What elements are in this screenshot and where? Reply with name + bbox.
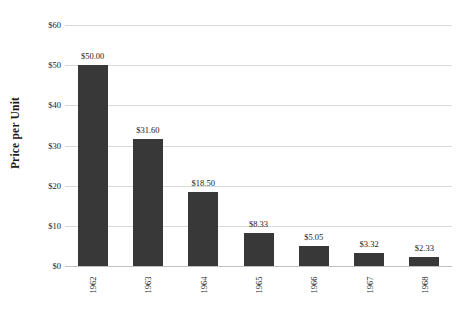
x-axis-tick-label: 1962 xyxy=(66,267,119,311)
bar[interactable] xyxy=(244,233,274,266)
x-axis-tick-label: 1963 xyxy=(121,267,174,311)
x-axis-tick-text: 1968 xyxy=(419,277,429,294)
bar-value-label: $8.33 xyxy=(249,219,268,229)
bar[interactable] xyxy=(409,257,439,266)
x-axis-tick-label: 1965 xyxy=(232,267,285,311)
y-axis-tick-label: $60 xyxy=(27,20,61,30)
bar-group[interactable]: $2.33 xyxy=(398,25,451,266)
bar-group[interactable]: $3.32 xyxy=(343,25,396,266)
bar-group[interactable]: $31.60 xyxy=(121,25,174,266)
x-axis-tick-label: 1968 xyxy=(398,267,451,311)
bar-value-label: $3.32 xyxy=(360,239,379,249)
y-axis-tick-label: $50 xyxy=(27,60,61,70)
bar-group[interactable]: $50.00 xyxy=(66,25,119,266)
bars-layer: $50.00$31.60$18.50$8.33$5.05$3.32$2.33 xyxy=(65,25,452,266)
x-axis-tick-label: 1966 xyxy=(287,267,340,311)
y-axis-title: Price per Unit xyxy=(0,0,30,266)
y-axis-tick-label: $20 xyxy=(27,181,61,191)
bar-value-label: $50.00 xyxy=(81,51,104,61)
bar[interactable] xyxy=(133,139,163,266)
bar-value-label: $2.33 xyxy=(415,243,434,253)
y-axis-tick-label: $0 xyxy=(27,261,61,271)
x-axis-tick-labels: 1962196319641965196619671968 xyxy=(65,267,452,311)
bar[interactable] xyxy=(188,192,218,266)
bar-group[interactable]: $8.33 xyxy=(232,25,285,266)
plot-area: $50.00$31.60$18.50$8.33$5.05$3.32$2.33 xyxy=(65,25,452,266)
x-axis-tick-text: 1963 xyxy=(143,277,153,294)
x-axis-tick-text: 1964 xyxy=(198,277,208,294)
bar[interactable] xyxy=(299,246,329,266)
bar-group[interactable]: $18.50 xyxy=(177,25,230,266)
y-axis-tick-label: $40 xyxy=(27,100,61,110)
x-axis-tick-label: 1967 xyxy=(343,267,396,311)
y-axis-tick-label: $30 xyxy=(27,141,61,151)
x-axis-tick-text: 1962 xyxy=(88,277,98,294)
y-axis-tick-label: $10 xyxy=(27,221,61,231)
bar-value-label: $31.60 xyxy=(136,125,159,135)
x-axis-tick-text: 1966 xyxy=(309,277,319,294)
bar-chart: Price per Unit $0$10$20$30$40$50$60 $50.… xyxy=(0,0,470,311)
x-axis-tick-label: 1964 xyxy=(177,267,230,311)
x-axis-tick-text: 1965 xyxy=(254,277,264,294)
bar-group[interactable]: $5.05 xyxy=(287,25,340,266)
y-axis-title-label: Price per Unit xyxy=(9,97,21,169)
bar-value-label: $5.05 xyxy=(304,232,323,242)
bar[interactable] xyxy=(354,253,384,266)
bar[interactable] xyxy=(78,65,108,266)
bar-value-label: $18.50 xyxy=(192,178,215,188)
x-axis-tick-text: 1967 xyxy=(364,277,374,294)
